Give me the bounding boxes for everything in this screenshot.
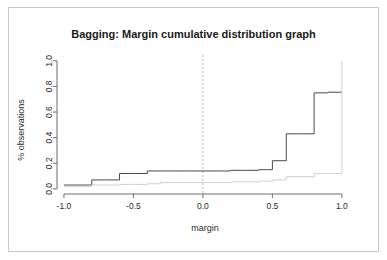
x-tick-label: 0.0 — [197, 201, 209, 211]
y-tick-label: 0.2 — [44, 157, 54, 169]
x-tick-label: 0.5 — [266, 201, 278, 211]
y-axis-title: % observations — [16, 99, 26, 161]
y-tick-label: 0.4 — [44, 131, 54, 143]
screenshot-root: Bagging: Margin cumulative distribution … — [0, 0, 387, 260]
x-axis-tick-labels: -1.0-0.50.00.51.0 — [57, 201, 348, 211]
y-tick-label: 0.6 — [44, 106, 54, 118]
margin-cumulative-distribution — [64, 92, 342, 185]
x-axis-tick-marks — [64, 194, 342, 198]
x-tick-label: 1.0 — [336, 201, 348, 211]
y-tick-label: 0.0 — [44, 183, 54, 195]
x-tick-label: -1.0 — [57, 201, 72, 211]
chart-title: Bagging: Margin cumulative distribution … — [71, 28, 316, 40]
y-axis-tick-labels: 0.00.20.40.60.81.0 — [44, 55, 54, 195]
x-tick-label: -0.5 — [126, 201, 141, 211]
chart-canvas: Bagging: Margin cumulative distribution … — [0, 0, 387, 260]
margin-cumulative-distribution-chart: Bagging: Margin cumulative distribution … — [0, 0, 387, 260]
x-axis-title: margin — [191, 223, 219, 233]
y-tick-label: 0.8 — [44, 80, 54, 92]
y-tick-label: 1.0 — [44, 55, 54, 67]
